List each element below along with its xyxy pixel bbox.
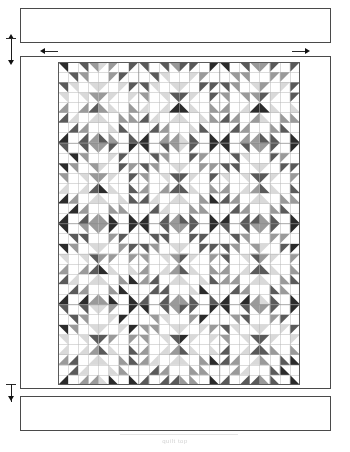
figure-caption: quilt top [0, 438, 350, 444]
border-height-dimension-line [11, 38, 12, 62]
quilt-width-tick-left [44, 51, 58, 52]
quilt-width-arrow-right-icon [305, 48, 310, 54]
border-height-tick-top [6, 38, 16, 39]
quilt-width-tick-right [292, 51, 306, 52]
quilt-pattern-canvas [58, 62, 300, 385]
quilt-width-arrow-left-icon [40, 48, 45, 54]
quilt-diagram-page: quilt top [0, 0, 350, 452]
top-border-strip [20, 8, 331, 43]
bottom-border-strip [20, 396, 331, 431]
pieced-grid [58, 62, 300, 385]
caption-rule [120, 434, 238, 435]
border-height-arrow-down-icon [8, 60, 14, 65]
bottom-border-arrow-down-icon [8, 396, 14, 401]
